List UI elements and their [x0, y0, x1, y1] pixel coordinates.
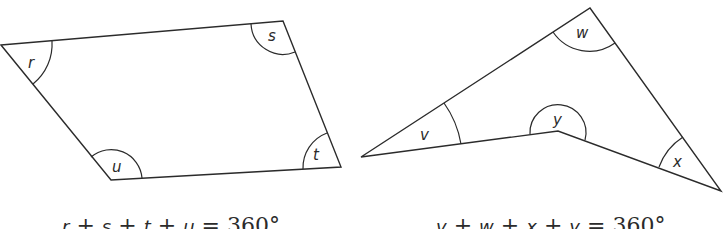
concave-quadrilateral: v w x y	[361, 8, 721, 191]
concave-quadrilateral-outline	[361, 8, 721, 191]
plus-sign: +	[76, 213, 94, 229]
angle-label-s: s	[268, 27, 276, 45]
angle-label-t: t	[313, 146, 320, 164]
plus-sign: +	[544, 213, 562, 229]
total-degrees: 360°	[612, 213, 665, 229]
angle-label-r: r	[28, 54, 35, 72]
angle-label-v: v	[420, 126, 430, 144]
plus-sign: +	[454, 213, 472, 229]
angle-sum-diagram: r s t u v w x y	[0, 0, 724, 229]
equals-sign: =	[202, 213, 220, 229]
quadrilaterals-figure: r s t u v w x y	[0, 0, 724, 229]
angle-label-w: w	[576, 24, 589, 42]
angle-sum-equation-left: r + s + t + u = 360°	[62, 213, 280, 229]
convex-quadrilateral: r s t u	[1, 21, 341, 180]
term-v: v	[436, 216, 447, 229]
term-u: u	[183, 216, 194, 229]
plus-sign: +	[118, 213, 136, 229]
angle-arc-r	[33, 41, 52, 84]
angle-sum-equation-right: v + w + x + y = 360°	[436, 213, 665, 229]
angle-label-x: x	[672, 153, 682, 171]
plus-sign: +	[501, 213, 519, 229]
angle-label-y: y	[552, 111, 563, 129]
equals-sign: =	[587, 213, 605, 229]
angle-arc-v	[444, 103, 461, 144]
term-y: y	[569, 216, 580, 229]
term-x: x	[526, 216, 537, 229]
term-r: r	[62, 216, 69, 229]
term-s: s	[102, 216, 111, 229]
plus-sign: +	[158, 213, 176, 229]
total-degrees: 360°	[227, 213, 280, 229]
term-t: t	[144, 216, 151, 229]
term-w: w	[479, 216, 494, 229]
angle-label-u: u	[112, 158, 122, 176]
